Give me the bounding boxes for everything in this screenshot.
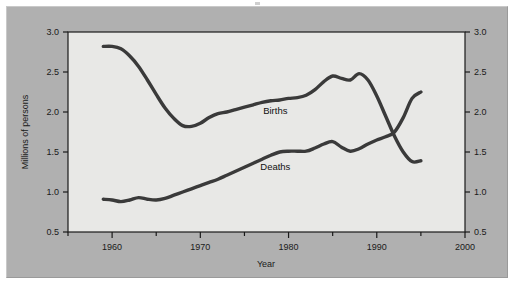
y-axis-left-ticks: [63, 32, 68, 232]
x-tick-label: 1970: [190, 242, 210, 252]
y-tick-label-left: 1.0: [46, 187, 59, 197]
line-chart: 0.51.01.52.02.53.0 0.51.01.52.02.53.0 19…: [0, 0, 513, 285]
y-tick-label-right: 2.0: [474, 107, 487, 117]
y-tick-label-left: 2.5: [46, 67, 59, 77]
y-tick-label-left: 3.0: [46, 27, 59, 37]
y-tick-label-left: 2.0: [46, 107, 59, 117]
y-tick-label-right: 1.0: [474, 187, 487, 197]
y-tick-label-right: 0.5: [474, 227, 487, 237]
y-axis-right-tick-labels: 0.51.01.52.02.53.0: [474, 27, 487, 237]
x-tick-label: 1990: [367, 242, 387, 252]
y-axis-title: Millions of persons: [20, 94, 30, 169]
series-label-births: Births: [263, 105, 288, 116]
y-tick-label-left: 0.5: [46, 227, 59, 237]
x-tick-label: 1960: [102, 242, 122, 252]
x-tick-label: 1980: [279, 242, 299, 252]
x-axis-title: Year: [257, 259, 275, 269]
x-axis-ticks: [68, 232, 465, 238]
x-axis-tick-labels: 19601970198019902000: [102, 242, 475, 252]
y-axis-right-ticks: [465, 32, 470, 232]
y-tick-label-right: 3.0: [474, 27, 487, 37]
y-tick-label-right: 1.5: [474, 147, 487, 157]
y-tick-label-right: 2.5: [474, 67, 487, 77]
y-axis-left-tick-labels: 0.51.01.52.02.53.0: [46, 27, 59, 237]
y-tick-label-left: 1.5: [46, 147, 59, 157]
x-tick-label: 2000: [455, 242, 475, 252]
series-label-deaths: Deaths: [260, 161, 290, 172]
figure-container: 0.51.01.52.02.53.0 0.51.01.52.02.53.0 19…: [0, 0, 513, 285]
